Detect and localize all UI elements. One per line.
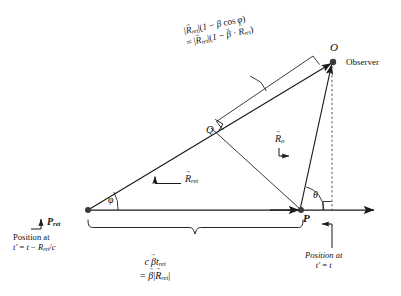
leader-P-ret xyxy=(31,219,41,229)
vector-label-R-o: Ro xyxy=(275,133,284,145)
observer-label: Observer xyxy=(346,57,379,67)
measure-bracket-top xyxy=(217,56,320,130)
caption-position-retarded-line-2: t′ = t − Rret/c xyxy=(13,243,56,253)
leader-position-right xyxy=(322,224,332,248)
caption-position-present-line-2: t′ = t xyxy=(305,261,342,271)
caption-position-retarded: Position at t′ = t − Rret/c xyxy=(13,233,56,252)
leader-R-o xyxy=(279,148,289,156)
point-label-P-ret: Pret xyxy=(47,216,60,228)
annotation-displacement-line-2: = β|Rret| xyxy=(140,270,170,282)
angle-label-phi: φ xyxy=(108,194,114,205)
segment-Q-to-P xyxy=(211,128,300,209)
annotation-displacement-formula: c βtret = β|Rret| xyxy=(140,256,170,282)
angle-label-theta: θ xyxy=(313,189,318,200)
leader-R-ret xyxy=(155,177,181,184)
measure-brace-bottom xyxy=(88,220,303,234)
vector-label-R-ret: Rret xyxy=(185,173,198,185)
point-label-Q: Q xyxy=(206,124,214,136)
caption-position-present: Position at t′ = t xyxy=(305,251,342,270)
vector-R-ret-line xyxy=(88,64,331,211)
figure-canvas: |Rret|(1 − β cos φ) = |Rret|(1 − β · Rre… xyxy=(0,0,401,296)
point-label-O: O xyxy=(330,41,338,53)
point-label-P: P xyxy=(303,212,310,224)
